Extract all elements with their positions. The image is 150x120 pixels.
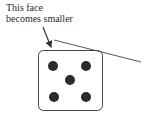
pip-bottom-left [49, 92, 59, 102]
pip-top-right [81, 61, 91, 71]
die-pips [48, 61, 91, 102]
annotation-arrow-icon [43, 27, 51, 47]
pip-top-left [48, 61, 58, 71]
pip-center [65, 75, 75, 85]
pip-bottom-right [81, 92, 91, 102]
die-diagram [0, 0, 150, 120]
